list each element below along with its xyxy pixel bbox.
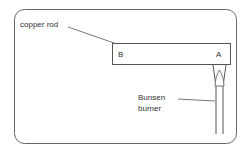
- label-end-a: A: [216, 51, 221, 59]
- label-end-b: B: [118, 51, 123, 59]
- frame-border: [15, 10, 237, 144]
- label-copper-rod: copper rod: [20, 21, 58, 29]
- label-bunsen-line1: Bunsen: [138, 94, 165, 102]
- copper-rod: [113, 44, 231, 65]
- label-bunsen-line2: burner: [138, 105, 161, 113]
